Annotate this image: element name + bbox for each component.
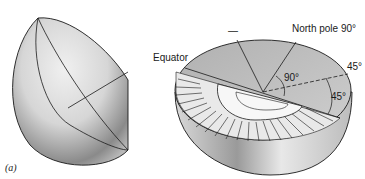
hemisphere-a — [13, 18, 128, 165]
north-pole-label: North pole 90° — [292, 24, 356, 34]
dash-mark: — — [228, 26, 238, 36]
angle-45-inner-label: 45° — [331, 92, 346, 102]
cut-sphere — [175, 40, 352, 175]
angle-45-outer-label: 45° — [347, 62, 362, 72]
angle-90-label: 90° — [284, 73, 299, 83]
panel-label-a: (a) — [5, 163, 17, 173]
equator-label: Equator — [153, 53, 188, 63]
